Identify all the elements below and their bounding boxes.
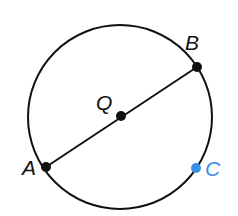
point-b — [192, 62, 202, 72]
label-b: B — [185, 31, 199, 54]
point-q — [116, 111, 126, 121]
point-a — [41, 162, 51, 172]
point-c — [191, 163, 201, 173]
circle-diagram: A B Q C — [0, 0, 238, 216]
label-c: C — [205, 157, 221, 180]
label-a: A — [20, 156, 36, 179]
diagram-canvas: A B Q C — [0, 0, 238, 216]
label-q: Q — [96, 91, 112, 114]
